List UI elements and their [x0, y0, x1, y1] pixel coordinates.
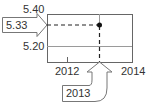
- x-tick-label-left: 2012: [55, 66, 79, 77]
- plot-frame: [48, 15, 133, 63]
- y-tick-label-top: 5.40: [23, 4, 44, 15]
- data-point: [97, 23, 102, 28]
- callout-label-x: 2013: [66, 88, 90, 99]
- y-tick-label-mid: 5.20: [23, 41, 44, 52]
- x-tick-label-right: 2014: [121, 66, 145, 77]
- callout-label-y: 5.33: [6, 20, 27, 31]
